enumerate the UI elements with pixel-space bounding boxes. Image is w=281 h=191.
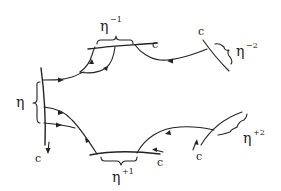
flow-branch-lower xyxy=(80,47,115,73)
flow-diagram: η c η −1 c c η −2 η +1 c η +2 c xyxy=(0,0,281,191)
eta-label: η xyxy=(16,94,24,110)
c-top-middle-label: c xyxy=(152,38,158,51)
eta-plus-2-label: η xyxy=(243,130,251,146)
eta-plus-1-brace xyxy=(101,157,137,165)
flow-line-bottom-right xyxy=(137,127,214,153)
flow-branch-upper xyxy=(80,47,95,72)
eta-minus-2-brace xyxy=(215,44,232,64)
c-bottom-middle-label: c xyxy=(157,156,163,169)
eta-plus-1-label: η xyxy=(112,169,120,185)
eta-plus-2-superscript: +2 xyxy=(253,128,265,137)
eta-minus-1-brace xyxy=(97,36,133,44)
arrowhead-icon xyxy=(195,139,199,145)
eta-minus-2-superscript: −2 xyxy=(246,41,258,50)
eta-brace xyxy=(33,82,40,123)
eta-minus-1-label: η xyxy=(100,18,108,34)
arrowhead-icon xyxy=(165,130,171,135)
top-transversal-curve xyxy=(88,43,157,49)
eta-minus-2-label: η xyxy=(236,43,244,59)
c-bottom-right-label: c xyxy=(196,150,202,163)
c-bottom-left-label: c xyxy=(35,152,41,165)
c-top-right-label: c xyxy=(198,25,204,38)
arrowhead-icon xyxy=(56,123,62,128)
arrowhead-icon xyxy=(58,78,64,83)
flow-line-bottom-upper xyxy=(44,107,97,154)
arrowhead-icon xyxy=(103,66,108,71)
top-right-transversal-curve xyxy=(203,40,229,71)
bottom-transversal-curve xyxy=(90,152,160,155)
arrowhead-icon xyxy=(46,148,51,154)
flow-line-top-left xyxy=(43,72,84,80)
arrowhead-icon xyxy=(152,148,157,153)
eta-plus-1-superscript: +1 xyxy=(122,167,134,176)
eta-minus-1-superscript: −1 xyxy=(110,15,122,24)
flow-line-top-right xyxy=(135,45,207,60)
